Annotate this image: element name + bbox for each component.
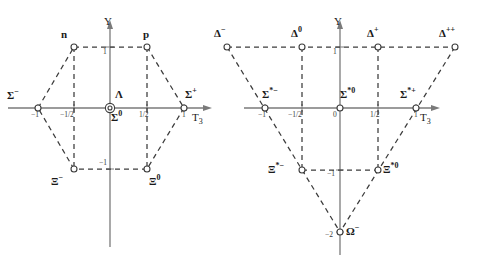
- point-lambda-sigma-zero-inner[interactable]: [108, 106, 112, 110]
- label-sigma-zero: Σ0: [111, 112, 122, 123]
- decuplet-ticklabel-x-1: 1: [414, 111, 418, 119]
- label-delta-plus: Δ+: [367, 28, 378, 39]
- label-sigma-star-plus: Σ*+: [400, 89, 416, 100]
- octet-axes: [8, 20, 212, 247]
- decuplet-y-axis-label: Y: [334, 16, 342, 27]
- decuplet-ticklabel-y-1: 1: [333, 48, 337, 56]
- octet-y-axis-label: Y: [104, 16, 112, 27]
- label-sigma-minus: Σ−: [7, 90, 19, 101]
- decuplet-triangle: [227, 47, 455, 232]
- label-sigma-star-zero: Σ*0: [340, 89, 355, 100]
- label-xi-star-minus: Ξ*−: [268, 164, 284, 175]
- decuplet-ticklabel-x-neg1: −1: [258, 111, 266, 119]
- label-xi-zero: Ξ0: [149, 176, 160, 187]
- octet-panel: [8, 20, 212, 247]
- label-neutron: n: [61, 29, 67, 40]
- octet-ticklabel-y-neg1: −1: [99, 159, 107, 167]
- label-delta-plusplus: Δ++: [439, 28, 455, 39]
- decuplet-ticklabel-y-neg2: −2: [325, 231, 333, 239]
- label-omega-minus: Ω−: [346, 226, 359, 237]
- point-proton[interactable]: [144, 44, 150, 50]
- point-delta-minus[interactable]: [224, 44, 230, 50]
- octet-edge-lower-right: [147, 108, 184, 169]
- diagram-svg: [0, 0, 478, 267]
- decuplet-panel: [224, 20, 458, 255]
- decuplet-axes: [244, 20, 440, 255]
- label-xi-star-zero: Ξ*0: [383, 164, 398, 175]
- label-sigma-star-minus: Σ*−: [262, 89, 278, 100]
- label-sigma-plus: Σ+: [185, 89, 197, 100]
- point-xi-minus[interactable]: [71, 166, 77, 172]
- octet-x-axis-label: T3: [192, 112, 203, 123]
- point-xi-zero[interactable]: [144, 166, 150, 172]
- point-sigma-star-zero[interactable]: [337, 105, 343, 111]
- decuplet-points: [224, 44, 458, 235]
- octet-x-arrow: [203, 105, 212, 111]
- label-xi-minus: Ξ−: [51, 176, 63, 187]
- label-delta-zero: Δ0: [291, 28, 302, 39]
- octet-ticklabel-x-neghalf: −1/2: [60, 111, 74, 119]
- octet-ticklabel-y-1: 1: [103, 48, 107, 56]
- decuplet-ticklabel-x-neghalf: −1/2: [288, 111, 302, 119]
- point-delta-plus[interactable]: [375, 44, 381, 50]
- octet-ticklabel-x-half: 1/2: [139, 111, 149, 119]
- point-delta-plusplus[interactable]: [452, 44, 458, 50]
- decuplet-x-arrow: [431, 105, 440, 111]
- point-omega-minus[interactable]: [337, 229, 343, 235]
- decuplet-ticklabel-x-half: 1/2: [370, 111, 380, 119]
- label-lambda: Λ: [115, 89, 123, 100]
- label-proton: p: [143, 29, 149, 40]
- point-neutron[interactable]: [71, 44, 77, 50]
- label-delta-minus: Δ−: [214, 28, 225, 39]
- decuplet-ticklabel-y-neg1: −1: [327, 170, 335, 178]
- octet-edge-upper-right: [147, 47, 184, 108]
- point-xi-star-minus[interactable]: [299, 167, 305, 173]
- figure-root: Y T3 −1 −1/2 1/2 1 1 −1 n p Σ− Λ Σ0 Σ+ Ξ…: [0, 0, 478, 267]
- decuplet-x-axis-label: T3: [420, 112, 431, 123]
- octet-ticklabel-x-1: 1: [182, 111, 186, 119]
- decuplet-edge-right: [340, 47, 455, 232]
- point-xi-star-zero[interactable]: [375, 167, 381, 173]
- octet-ticklabel-x-neg1: −1: [31, 111, 39, 119]
- decuplet-edge-left: [227, 47, 340, 232]
- octet-edge-upper-left: [38, 47, 74, 108]
- decuplet-ticklabel-x-zero: 0: [333, 111, 337, 119]
- point-delta-zero[interactable]: [299, 44, 305, 50]
